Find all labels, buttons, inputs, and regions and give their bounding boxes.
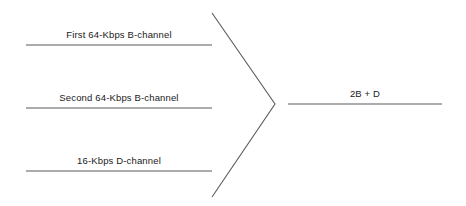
b-channel-1-label: First 64-Kbps B-channel bbox=[66, 29, 171, 41]
aggregate-output-label: 2B + D bbox=[350, 88, 380, 100]
diagram-canvas: First 64-Kbps B-channel Second 64-Kbps B… bbox=[0, 0, 466, 206]
d-channel-label: 16-Kbps D-channel bbox=[77, 155, 161, 167]
b-channel-2-label: Second 64-Kbps B-channel bbox=[59, 92, 178, 104]
v-connector-shape bbox=[212, 13, 275, 197]
